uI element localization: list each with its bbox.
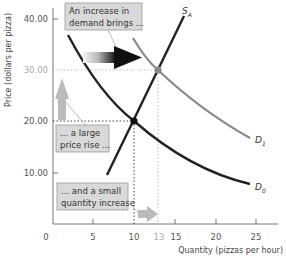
demand-curve-d1 [133, 38, 250, 138]
y-tick-10: 10.00 [24, 168, 48, 178]
x-tick-5: 5 [90, 232, 95, 242]
label-d1: D1 [255, 135, 266, 147]
equilibrium-point-new [154, 66, 161, 73]
svg-text:... a large: ... a large [60, 128, 100, 138]
curve-labels: SA D1 D0 [182, 6, 266, 194]
callout-quantity: ... and a small quantity increase [57, 183, 135, 210]
curves [68, 16, 250, 184]
quantity-increase-arrow [138, 206, 158, 222]
price-rise-arrow [55, 78, 69, 120]
chart-svg: 40.00 30.00 20.00 10.00 0 5 10 13 15 20 … [0, 0, 286, 257]
supply-demand-chart: 40.00 30.00 20.00 10.00 0 5 10 13 15 20 … [0, 0, 286, 257]
x-tick-15: 15 [171, 232, 182, 242]
label-d0: D0 [255, 182, 266, 194]
y-tick-40: 40.00 [24, 14, 48, 24]
x-tick-20: 20 [211, 232, 222, 242]
svg-text:An increase in: An increase in [69, 6, 129, 16]
y-tick-labels: 40.00 30.00 20.00 10.00 [24, 14, 48, 178]
svg-text:... and a small: ... and a small [61, 186, 121, 196]
x-tick-13: 13 [154, 232, 165, 242]
svg-text:price rise ...: price rise ... [60, 140, 110, 150]
callout-demand: An increase in demand brings ... [65, 3, 144, 30]
x-axis-title: Quantity (pizzas per hour) [178, 246, 283, 255]
svg-text:quantity increase: quantity increase [61, 198, 135, 208]
equilibrium-point-initial [130, 117, 137, 124]
callout-price: ... a large price rise ... [56, 125, 110, 152]
x-tick-10: 10 [129, 232, 140, 242]
svg-text:demand brings ...: demand brings ... [69, 18, 144, 28]
demand-shift-arrow [83, 46, 142, 69]
x-tick-25: 25 [251, 232, 262, 242]
x-tick-0: 0 [43, 232, 48, 242]
y-axis-title: Price (dollars per pizza) [4, 13, 13, 107]
y-tick-30: 30.00 [24, 65, 48, 75]
x-tick-labels: 0 5 10 13 15 20 25 [43, 232, 261, 242]
y-tick-20: 20.00 [24, 116, 48, 126]
